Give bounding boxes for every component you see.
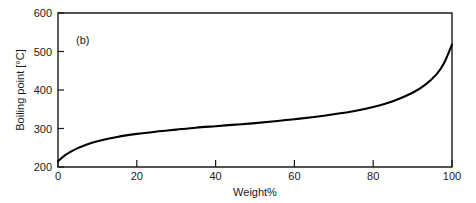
plot-frame bbox=[58, 13, 452, 167]
x-tick-label-60: 60 bbox=[288, 170, 300, 182]
x-tick-label-100: 100 bbox=[443, 170, 461, 182]
x-axis-ticks bbox=[58, 160, 452, 167]
y-tick-label-600: 600 bbox=[34, 7, 52, 19]
boiling-point-line-chart: 600 500 400 300 200 0 20 40 60 80 100 We… bbox=[0, 0, 476, 203]
x-tick-label-20: 20 bbox=[131, 170, 143, 182]
y-tick-label-400: 400 bbox=[34, 84, 52, 96]
chart-figure: 600 500 400 300 200 0 20 40 60 80 100 We… bbox=[0, 0, 476, 203]
y-axis-tick-labels: 600 500 400 300 200 bbox=[34, 7, 52, 173]
x-axis-tick-labels: 0 20 40 60 80 100 bbox=[55, 170, 461, 182]
y-axis-title: Boiling point [°C] bbox=[14, 49, 26, 130]
x-axis-title: Weight% bbox=[233, 186, 277, 198]
boiling-point-curve bbox=[58, 45, 452, 162]
x-tick-label-80: 80 bbox=[367, 170, 379, 182]
x-tick-label-0: 0 bbox=[55, 170, 61, 182]
x-tick-label-40: 40 bbox=[209, 170, 221, 182]
y-tick-label-500: 500 bbox=[34, 46, 52, 58]
y-tick-label-300: 300 bbox=[34, 123, 52, 135]
y-axis-ticks bbox=[58, 13, 64, 167]
panel-label: (b) bbox=[76, 34, 89, 46]
y-tick-label-200: 200 bbox=[34, 161, 52, 173]
plot-frame-rect bbox=[58, 13, 452, 167]
